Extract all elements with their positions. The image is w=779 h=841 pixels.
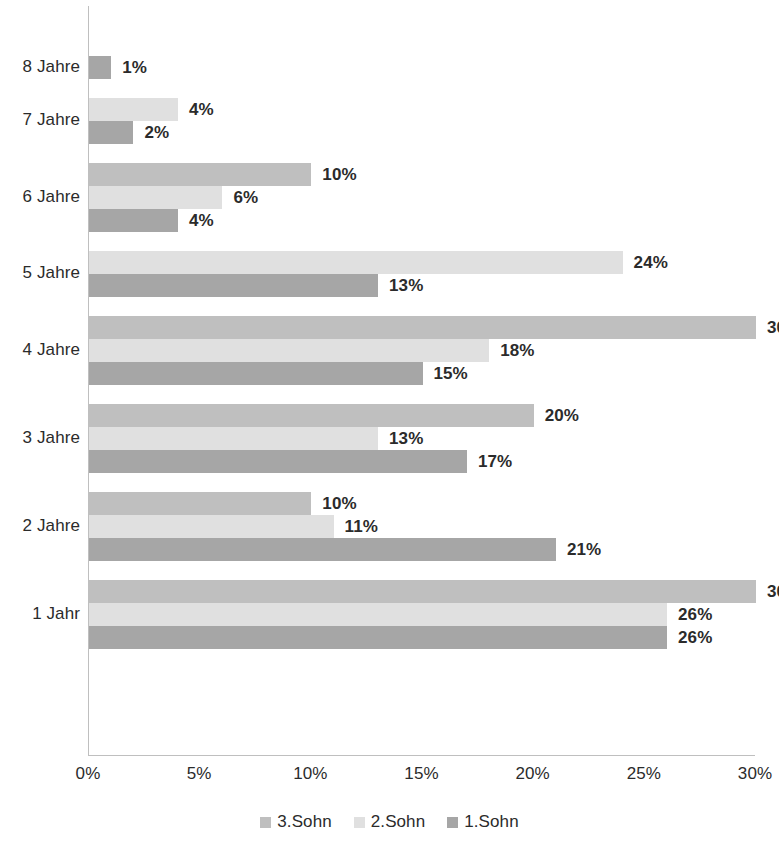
bar-2-Sohn xyxy=(89,603,667,626)
x-tick-30: 30% xyxy=(738,764,772,784)
legend-label: 3.Sohn xyxy=(277,812,331,832)
bar-2-Sohn xyxy=(89,515,334,538)
bar-2-Sohn xyxy=(89,427,378,450)
bar-value-label: 30% xyxy=(767,318,779,338)
bar-group: 20%13%17% xyxy=(89,404,763,473)
bar-row: 6% xyxy=(89,186,763,209)
bar-row: 11% xyxy=(89,515,763,538)
bar-2-Sohn xyxy=(89,339,489,362)
legend-item-1-Sohn[interactable]: 1.Sohn xyxy=(447,812,518,832)
bar-row: 2% xyxy=(89,121,763,144)
bar-value-label: 11% xyxy=(345,517,378,537)
bar-value-label: 10% xyxy=(322,165,356,185)
bar-group: 30%18%15% xyxy=(89,316,763,385)
bar-2-Sohn xyxy=(89,186,222,209)
bar-value-label: 17% xyxy=(478,452,512,472)
bar-1-Sohn xyxy=(89,56,111,79)
bar-1-Sohn xyxy=(89,274,378,297)
legend-swatch-icon xyxy=(447,817,458,828)
bar-row: 10% xyxy=(89,492,763,515)
bar-chart: 8 Jahre7 Jahre6 Jahre5 Jahre4 Jahre3 Jah… xyxy=(0,0,779,841)
bar-3-Sohn xyxy=(89,163,311,186)
y-axis-label-5: 5 Jahre xyxy=(0,263,80,283)
bar-value-label: 6% xyxy=(233,188,258,208)
y-axis-label-1: 1 Jahr xyxy=(0,604,80,624)
bar-group: 10%11%21% xyxy=(89,492,763,561)
bar-value-label: 21% xyxy=(567,540,601,560)
bar-3-Sohn xyxy=(89,316,756,339)
y-axis-label-3: 3 Jahre xyxy=(0,428,80,448)
x-tick-10: 10% xyxy=(293,764,327,784)
bar-2-Sohn xyxy=(89,251,623,274)
y-axis-label-8: 8 Jahre xyxy=(0,57,80,77)
bar-row: 4% xyxy=(89,209,763,232)
bar-value-label: 1% xyxy=(122,58,147,78)
bar-row: 17% xyxy=(89,450,763,473)
bar-3-Sohn xyxy=(89,580,756,603)
legend-swatch-icon xyxy=(260,817,271,828)
bar-1-Sohn xyxy=(89,209,178,232)
bar-group: 10%6%4% xyxy=(89,163,763,232)
bar-value-label: 13% xyxy=(389,429,423,449)
bar-value-label: 30% xyxy=(767,582,779,602)
legend-label: 2.Sohn xyxy=(371,812,425,832)
bar-2-Sohn xyxy=(89,98,178,121)
bar-row: 1% xyxy=(89,56,763,79)
bar-row: 13% xyxy=(89,274,763,297)
bar-group: 30%26%26% xyxy=(89,580,763,649)
bar-group: 4%2% xyxy=(89,98,763,144)
bar-value-label: 24% xyxy=(634,253,668,273)
bar-value-label: 2% xyxy=(144,123,169,143)
bar-row: 24% xyxy=(89,251,763,274)
bar-group: 24%13% xyxy=(89,251,763,297)
x-axis-tick-labels: 0%5%10%15%20%25%30%35% xyxy=(88,764,779,792)
bar-value-label: 13% xyxy=(389,276,423,296)
x-axis-line xyxy=(88,755,755,756)
bar-row: 13% xyxy=(89,427,763,450)
bar-3-Sohn xyxy=(89,404,534,427)
y-axis-category-labels: 8 Jahre7 Jahre6 Jahre5 Jahre4 Jahre3 Jah… xyxy=(0,6,80,755)
bar-value-label: 15% xyxy=(434,364,468,384)
bar-3-Sohn xyxy=(89,492,311,515)
bar-value-label: 18% xyxy=(500,341,534,361)
bar-row: 30% xyxy=(89,580,763,603)
bar-1-Sohn xyxy=(89,538,556,561)
bar-1-Sohn xyxy=(89,626,667,649)
x-tick-25: 25% xyxy=(627,764,661,784)
y-axis-label-2: 2 Jahre xyxy=(0,516,80,536)
bar-value-label: 26% xyxy=(678,628,712,648)
bar-row: 20% xyxy=(89,404,763,427)
x-tick-5: 5% xyxy=(187,764,212,784)
x-tick-20: 20% xyxy=(515,764,549,784)
bar-value-label: 20% xyxy=(545,406,579,426)
y-axis-label-7: 7 Jahre xyxy=(0,110,80,130)
bar-1-Sohn xyxy=(89,362,423,385)
bar-row: 15% xyxy=(89,362,763,385)
bar-row: 21% xyxy=(89,538,763,561)
bar-value-label: 4% xyxy=(189,211,214,231)
chart-legend: 3.Sohn2.Sohn1.Sohn xyxy=(0,812,779,832)
bar-1-Sohn xyxy=(89,450,467,473)
bar-value-label: 10% xyxy=(322,494,356,514)
y-axis-label-4: 4 Jahre xyxy=(0,340,80,360)
bar-row: 26% xyxy=(89,626,763,649)
x-tick-0: 0% xyxy=(76,764,101,784)
legend-item-3-Sohn[interactable]: 3.Sohn xyxy=(260,812,331,832)
bar-row: 4% xyxy=(89,98,763,121)
bar-value-label: 4% xyxy=(189,100,214,120)
bar-row: 10% xyxy=(89,163,763,186)
bar-row: 26% xyxy=(89,603,763,626)
legend-label: 1.Sohn xyxy=(464,812,518,832)
x-tick-15: 15% xyxy=(404,764,438,784)
bar-row: 30% xyxy=(89,316,763,339)
bar-1-Sohn xyxy=(89,121,133,144)
legend-item-2-Sohn[interactable]: 2.Sohn xyxy=(354,812,425,832)
legend-swatch-icon xyxy=(354,817,365,828)
y-axis-label-6: 6 Jahre xyxy=(0,187,80,207)
bar-row: 18% xyxy=(89,339,763,362)
bar-group: 1% xyxy=(89,56,763,79)
plot-area: 1%4%2%10%6%4%24%13%30%18%15%20%13%17%10%… xyxy=(88,6,763,755)
bar-value-label: 26% xyxy=(678,605,712,625)
